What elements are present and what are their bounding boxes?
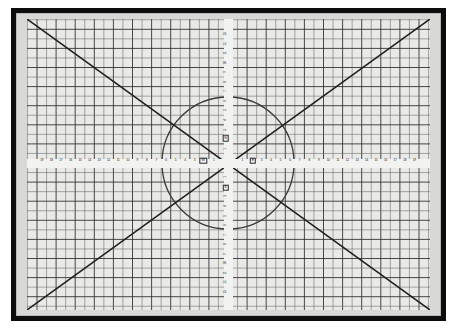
ruler-tick-west: 8	[146, 159, 148, 162]
ruler-tick-west: 16	[69, 159, 72, 162]
ruler-tick-east: 18	[403, 159, 406, 162]
north-marker: N	[222, 135, 229, 142]
ruler-tick-east: 7	[299, 159, 301, 162]
mat-grid-surface: 1918171615141312111098765432112345678910…	[27, 19, 430, 310]
ruler-tick-south: 10	[224, 262, 227, 265]
ruler-tick-north: 13	[224, 33, 227, 36]
ruler-tick-west: 7	[156, 159, 158, 162]
ruler-tick-south: 8	[224, 243, 227, 245]
ruler-tick-east: 12	[346, 159, 349, 162]
ruler-tick-west: 17	[59, 159, 62, 162]
ruler-tick-south: 4	[224, 205, 227, 207]
ruler-tick-west: 12	[107, 159, 110, 162]
ruler-tick-north: 1	[224, 148, 227, 150]
ruler-tick-west: 1	[213, 159, 215, 162]
ruler-tick-west: 4	[184, 159, 186, 162]
ruler-tick-north: 3	[224, 129, 227, 131]
ruler-tick-west: 10	[126, 159, 129, 162]
ruler-tick-east: 19	[413, 159, 416, 162]
ruler-tick-east: 16	[384, 159, 387, 162]
ruler-tick-east: 1	[242, 159, 244, 162]
ruler-tick-west: 5	[175, 159, 177, 162]
ruler-tick-west: 15	[78, 159, 81, 162]
ruler-tick-west: 11	[117, 159, 120, 162]
ruler-tick-east: 17	[394, 159, 397, 162]
south-marker: S	[222, 185, 228, 192]
ruler-tick-east: 13	[355, 159, 358, 162]
ruler-tick-east: 5	[280, 159, 282, 162]
ruler-tick-east: 10	[327, 159, 330, 162]
ruler-tick-south: 7	[224, 234, 227, 236]
ruler-tick-west: 13	[98, 159, 101, 162]
ruler-tick-east: 8	[308, 159, 310, 162]
ruler-tick-north: 11	[224, 52, 227, 55]
ruler-tick-south: 12	[224, 281, 227, 284]
ruler-tick-east: 11	[336, 159, 339, 162]
ruler-tick-north: 10	[224, 61, 227, 64]
ruler-tick-north: 4	[224, 119, 227, 121]
ruler-tick-east: 15	[374, 159, 377, 162]
ruler-tick-west: 9	[137, 159, 139, 162]
west-marker: W	[199, 157, 206, 164]
ruler-tick-south: 13	[224, 290, 227, 293]
ruler-tick-east: 3	[261, 159, 263, 162]
cutting-mat: 1918171615141312111098765432112345678910…	[0, 0, 457, 332]
ruler-tick-west: 14	[88, 159, 91, 162]
ruler-tick-north: 8	[224, 81, 227, 83]
ruler-tick-south: 11	[224, 271, 227, 274]
ruler-tick-north: 12	[224, 42, 227, 45]
ruler-tick-south: 5	[224, 215, 227, 217]
ruler-tick-east: 14	[365, 159, 368, 162]
ruler-tick-west: 3	[194, 159, 196, 162]
ruler-tick-west: 6	[165, 159, 167, 162]
ruler-tick-west: 18	[50, 159, 53, 162]
ruler-tick-east: 6	[289, 159, 291, 162]
ruler-tick-south: 6	[224, 224, 227, 226]
ruler-tick-south: 9	[224, 253, 227, 255]
east-marker: E	[250, 157, 256, 164]
ruler-tick-north: 6	[224, 100, 227, 102]
ruler-tick-west: 19	[40, 159, 43, 162]
ruler-tick-east: 4	[270, 159, 272, 162]
ruler-tick-east: 9	[318, 159, 320, 162]
